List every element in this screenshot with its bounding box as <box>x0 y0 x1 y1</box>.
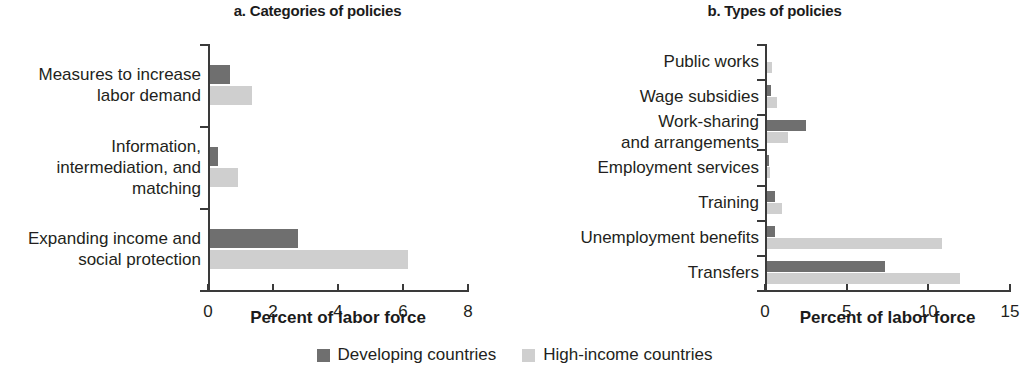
category-label: Information, intermediation, and matchin… <box>1 136 201 199</box>
bar-developing <box>210 147 218 166</box>
chart-legend: Developing countriesHigh-income countrie… <box>0 345 1029 365</box>
bar-developing <box>210 229 298 248</box>
bar-group <box>767 255 1012 290</box>
bar-group <box>767 149 1012 184</box>
y-tick <box>200 126 208 128</box>
bar-developing <box>767 85 771 96</box>
legend-label: High-income countries <box>543 345 712 365</box>
panel-a-x-axis-title: Percent of labor force <box>208 308 468 328</box>
y-tick <box>200 44 208 46</box>
bar-group <box>210 126 470 208</box>
category-label: Transfers <box>537 262 759 283</box>
bar-high-income <box>210 168 238 187</box>
category-label: Work-sharing and arrangements <box>537 111 759 153</box>
category-label: Training <box>537 192 759 213</box>
legend-item-high_income: High-income countries <box>522 345 712 365</box>
y-tick <box>757 44 765 46</box>
panel-a-title: a. Categories of policies <box>0 2 515 19</box>
panel-b: b. Types of policies 051015 Percent of l… <box>540 0 1029 340</box>
category-label: Public works <box>537 51 759 72</box>
bar-group <box>210 208 470 290</box>
panel-b-x-axis-title: Percent of labor force <box>765 308 1010 328</box>
y-tick <box>200 290 208 292</box>
bar-high-income <box>210 250 408 269</box>
bar-high-income <box>767 132 788 143</box>
panel-a-plot-area: 02468 <box>208 44 468 292</box>
bar-high-income <box>767 203 782 214</box>
category-label: Measures to increase labor demand <box>1 64 201 106</box>
legend-swatch-icon <box>317 349 330 362</box>
category-label: Expanding income and social protection <box>1 228 201 270</box>
legend-label: Developing countries <box>338 345 497 365</box>
bar-group <box>767 44 1012 79</box>
bar-group <box>767 114 1012 149</box>
y-tick <box>757 220 765 222</box>
bar-developing <box>767 155 769 166</box>
bar-group <box>210 44 470 126</box>
bar-group <box>767 220 1012 255</box>
legend-item-developing: Developing countries <box>317 345 497 365</box>
panel-a: a. Categories of policies 02468 Percent … <box>0 0 515 340</box>
bar-high-income <box>767 167 770 178</box>
panel-b-x-axis <box>765 290 1010 292</box>
y-tick <box>757 79 765 81</box>
bar-high-income <box>767 97 777 108</box>
bar-developing <box>767 261 885 272</box>
bar-developing <box>767 120 806 131</box>
bar-group <box>767 79 1012 114</box>
bar-high-income <box>767 273 960 284</box>
bar-developing <box>210 65 230 84</box>
category-label: Unemployment benefits <box>537 227 759 248</box>
category-label: Employment services <box>537 157 759 178</box>
bar-developing <box>767 191 775 202</box>
bar-developing <box>767 226 775 237</box>
legend-swatch-icon <box>522 349 535 362</box>
bar-high-income <box>767 238 942 249</box>
figure-root: a. Categories of policies 02468 Percent … <box>0 0 1029 377</box>
y-tick <box>757 255 765 257</box>
bar-group <box>767 185 1012 220</box>
panel-b-title: b. Types of policies <box>540 2 1029 19</box>
y-tick <box>757 185 765 187</box>
y-tick <box>757 290 765 292</box>
y-tick <box>200 208 208 210</box>
category-label: Wage subsidies <box>537 86 759 107</box>
bar-high-income <box>210 86 252 105</box>
panel-b-plot-area: 051015 <box>765 44 1010 292</box>
bar-high-income <box>767 62 772 73</box>
